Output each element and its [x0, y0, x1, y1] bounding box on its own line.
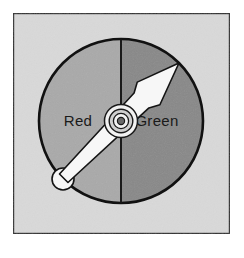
dial-figure: Red Green: [0, 0, 244, 258]
figure-stage: Red Green: [0, 0, 244, 258]
hub-center-pin: [117, 117, 124, 124]
red-sector-label: Red: [64, 112, 92, 129]
needle-hub: [105, 105, 138, 138]
